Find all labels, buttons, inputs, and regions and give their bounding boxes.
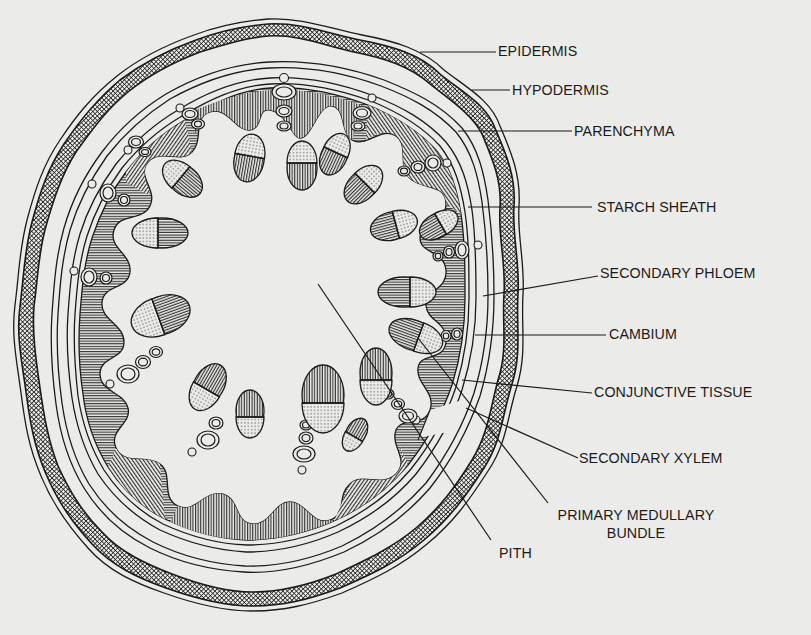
label-parenchyma: PARENCHYMA	[574, 122, 674, 140]
phloem-bumps	[70, 74, 482, 475]
medullary-bundle	[230, 132, 268, 184]
label-starch-sheath: STARCH SHEATH	[597, 198, 717, 216]
medullary-bundle	[125, 288, 195, 345]
leader-secondary-phloem	[483, 276, 598, 296]
label-primary-medullary-bundle-line1: PRIMARY MEDULLARY	[544, 506, 728, 524]
medullary-bundle	[236, 390, 264, 438]
cortex-layers	[51, 62, 494, 573]
medullary-bundle	[287, 141, 317, 190]
label-pith: PITH	[499, 544, 532, 562]
label-conjunctive-tissue: CONJUNCTIVE TISSUE	[594, 383, 752, 401]
label-secondary-xylem: SECONDARY XYLEM	[579, 449, 723, 467]
medullary-bundle	[302, 365, 344, 433]
label-primary-medullary-bundle: PRIMARY MEDULLARY BUNDLE	[544, 506, 728, 542]
medullary-bundle	[182, 358, 233, 417]
medullary-bundle	[378, 277, 436, 307]
medullary-bundle	[156, 153, 209, 204]
medullary-bundle	[132, 218, 188, 248]
label-secondary-phloem: SECONDARY PHLOEM	[600, 264, 755, 282]
medullary-bundle	[337, 414, 372, 455]
medullary-bundle	[367, 206, 421, 245]
label-primary-medullary-bundle-line2: BUNDLE	[544, 524, 728, 542]
xylem-vertical-sector-bottom	[170, 494, 334, 540]
label-cambium: CAMBIUM	[609, 325, 677, 343]
medullary-bundle	[360, 348, 392, 405]
label-epidermis: EPIDERMIS	[498, 42, 577, 60]
label-hypodermis: HYPODERMIS	[512, 81, 609, 99]
starch-sheath-outer	[51, 62, 494, 573]
vascular-ring	[67, 74, 482, 553]
medullary-bundle	[337, 158, 389, 210]
